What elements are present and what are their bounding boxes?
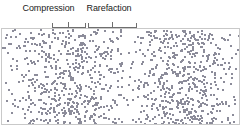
bracket-pointer-tick [112,22,113,27]
sound-wave-figure: Compression Rarefaction [0,0,242,134]
compression-bracket [52,21,86,28]
particle-dot-canvas [2,29,239,124]
particle-field-panel [1,28,240,125]
rarefaction-bracket [88,21,137,28]
rarefaction-label: Rarefaction [83,3,135,14]
bracket-pointer-tick [68,22,69,27]
compression-label: Compression [21,3,76,14]
